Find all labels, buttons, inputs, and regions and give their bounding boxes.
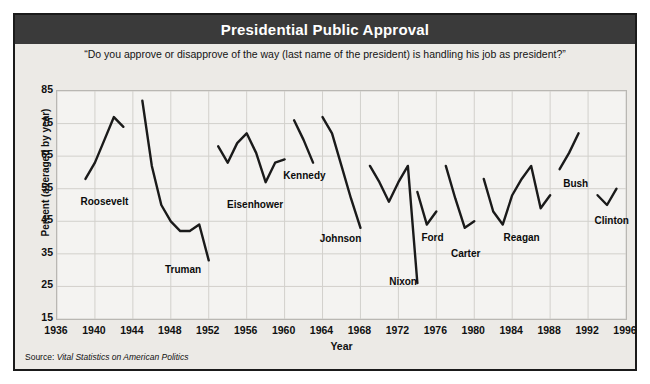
y-axis-tick-label: 65 xyxy=(19,148,53,160)
y-axis-tick-label: 35 xyxy=(19,246,53,258)
source-note: Source: Vital Statistics on American Pol… xyxy=(25,352,188,362)
x-axis-tick-label: 1960 xyxy=(272,324,295,336)
x-axis-title: Year xyxy=(56,340,627,352)
page-title: Presidential Public Approval xyxy=(221,21,429,38)
x-axis-tick-label: 1952 xyxy=(196,324,219,336)
x-axis-tick-label: 1988 xyxy=(537,324,560,336)
x-axis-tick-label: 1944 xyxy=(120,324,143,336)
y-axis-tick-label: 25 xyxy=(19,278,53,290)
series-label-eisenhower: Eisenhower xyxy=(227,199,283,210)
x-axis-tick-label: 1956 xyxy=(234,324,257,336)
x-axis-tick-label: 1964 xyxy=(310,324,333,336)
x-axis-ticks: 1936194019441948195219561960196419681972… xyxy=(56,324,627,340)
y-axis-ticks: 1525354555657585 xyxy=(15,90,53,320)
x-axis-tick-label: 1992 xyxy=(575,324,598,336)
series-label-bush: Bush xyxy=(563,178,588,189)
y-axis-tick-label: 55 xyxy=(19,181,53,193)
series-label-reagan: Reagan xyxy=(504,232,540,243)
x-axis-tick-label: 1972 xyxy=(386,324,409,336)
chart-frame: Presidential Public Approval “Do you app… xyxy=(13,13,637,371)
x-axis-tick-label: 1940 xyxy=(82,324,105,336)
x-axis-tick-label: 1996 xyxy=(613,324,636,336)
chart-subtitle: “Do you approve or disapprove of the way… xyxy=(15,48,635,60)
source-prefix: Source: xyxy=(25,352,54,362)
x-axis-tick-label: 1976 xyxy=(424,324,447,336)
x-axis-tick-label: 1980 xyxy=(462,324,485,336)
series-label-clinton: Clinton xyxy=(595,215,629,226)
x-axis-tick-label: 1948 xyxy=(158,324,181,336)
source-work: Vital Statistics on American Politics xyxy=(57,352,189,362)
series-label-truman: Truman xyxy=(165,264,201,275)
series-labels: RooseveltTrumanEisenhowerKennedyJohnsonN… xyxy=(56,90,627,320)
series-label-ford: Ford xyxy=(421,232,443,243)
series-label-kennedy: Kennedy xyxy=(283,170,325,181)
y-axis-tick-label: 45 xyxy=(19,213,53,225)
series-label-johnson: Johnson xyxy=(320,233,362,244)
y-axis-tick-label: 75 xyxy=(19,116,53,128)
x-axis-tick-label: 1984 xyxy=(500,324,523,336)
y-axis-tick-label: 15 xyxy=(19,311,53,323)
y-axis-tick-label: 85 xyxy=(19,83,53,95)
series-label-nixon: Nixon xyxy=(389,276,417,287)
series-label-roosevelt: Roosevelt xyxy=(80,196,128,207)
series-label-carter: Carter xyxy=(451,248,480,259)
x-axis-tick-label: 1936 xyxy=(44,324,67,336)
chart-title-bar: Presidential Public Approval xyxy=(15,15,635,44)
x-axis-tick-label: 1968 xyxy=(348,324,371,336)
